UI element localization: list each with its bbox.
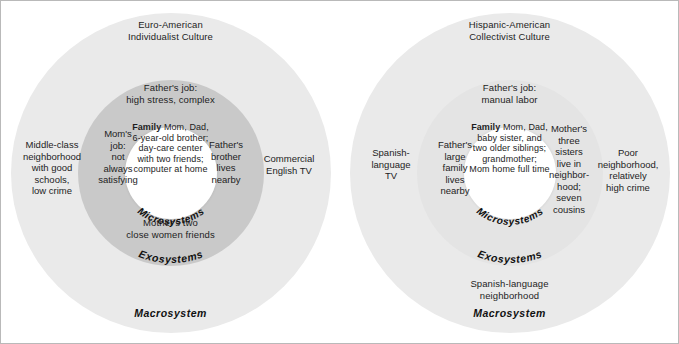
macrosystem-left-text: Spanish-languageTV	[348, 147, 434, 182]
exosystem-bottom-text: Mother's twoclose women friends	[86, 217, 256, 240]
culture-title: Euro-AmericanIndividualist Culture	[71, 19, 271, 42]
macrosystem-right-text: Poorneighborhood,relativelyhigh crime	[585, 147, 671, 193]
exosystem-left-text: Mom'sjob:notalwayssatisfying	[89, 128, 147, 186]
macrosystem-label: Macrosystem	[91, 307, 251, 319]
fathers-job-text: Father's job:manual labor	[430, 82, 590, 105]
fathers-job-text: Father's job:high stress, complex	[91, 82, 251, 105]
macrosystem-bottom-text: Spanish-languageneighborhood	[425, 278, 595, 301]
family-heading: Family	[471, 122, 500, 132]
culture-title: Hispanic-AmericanCollectivist Culture	[410, 19, 610, 42]
macrosystem-right-text: CommercialEnglish TV	[246, 153, 332, 176]
panel-hispanic-american: Hispanic-AmericanCollectivist Culture Fa…	[340, 1, 679, 344]
macrosystem-label: Macrosystem	[430, 307, 590, 319]
panel-euro-american: Euro-AmericanIndividualist Culture Fathe…	[1, 1, 340, 344]
exosystem-left-text: Father'slargefamilylivesnearby	[426, 139, 484, 197]
ecological-systems-figure: Euro-AmericanIndividualist Culture Fathe…	[0, 0, 679, 344]
macrosystem-left-text: Middle-classneighborhoodwith goodschools…	[9, 139, 95, 197]
